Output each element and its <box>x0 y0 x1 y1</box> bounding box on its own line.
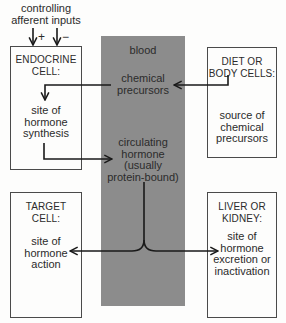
precursors-to-endocrine-arrow <box>45 85 111 100</box>
diet-to-blood-arrow <box>174 75 228 85</box>
connector-lines <box>0 0 286 323</box>
hormone-to-target-arrow <box>70 240 144 251</box>
synthesis-to-circulating-arrow <box>44 143 112 159</box>
hormone-to-liver-arrow <box>144 240 218 251</box>
